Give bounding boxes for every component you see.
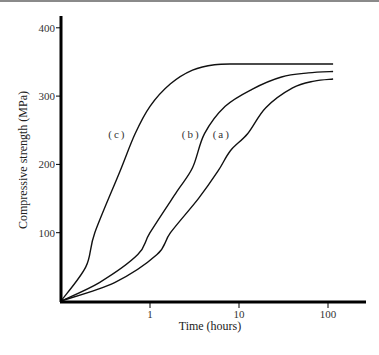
x-axis-label: Time (hours) (179, 319, 242, 333)
x-tick-label: 100 (320, 308, 337, 320)
curve-label: (a) (213, 128, 231, 141)
curve-c (61, 64, 333, 301)
curve-labels: (c)(b)(a) (108, 128, 231, 141)
y-axis-label: Compressive strength (MPa) (16, 91, 30, 229)
y-tick-label: 200 (39, 158, 56, 170)
y-tick-label: 400 (39, 22, 56, 34)
curve-label: (b) (182, 128, 201, 141)
y-tick-label: 100 (39, 227, 56, 239)
curve-label: (c) (108, 128, 126, 141)
y-ticks: 100200300400 (39, 22, 62, 239)
y-tick-label: 300 (39, 90, 56, 102)
x-ticks: 110100 (147, 302, 337, 320)
curve-b (61, 72, 333, 302)
curve-a (61, 79, 333, 301)
curves-group (61, 64, 333, 301)
x-tick-label: 1 (147, 308, 153, 320)
line-chart: 100200300400 110100 (c)(b)(a) Time (hour… (0, 0, 379, 355)
figure: 100200300400 110100 (c)(b)(a) Time (hour… (0, 0, 379, 355)
